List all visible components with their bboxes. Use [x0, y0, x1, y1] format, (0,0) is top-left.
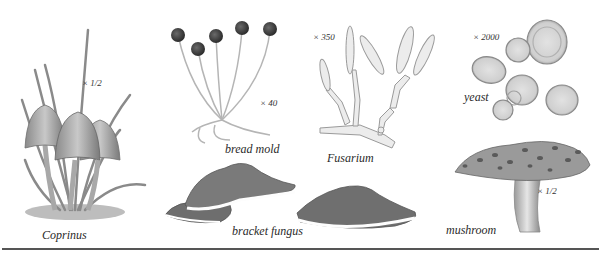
magnification-fusarium: × 350: [313, 32, 335, 42]
label-bracket-fungus: bracket fungus: [232, 224, 303, 239]
bottom-rule: [2, 248, 599, 250]
magnification-yeast: × 2000: [473, 32, 499, 42]
magnification-bread-mold: × 40: [260, 98, 277, 108]
mushroom-drawing: [455, 142, 590, 233]
bread-mold-sporangia: [171, 21, 277, 56]
label-mushroom: mushroom: [446, 223, 496, 238]
illustrations: [0, 0, 601, 255]
coprinus-drawing: [22, 30, 145, 220]
fusarium-drawing: [318, 25, 438, 148]
magnification-mushroom: × 1/2: [537, 186, 557, 196]
magnification-coprinus: × 1/2: [82, 78, 102, 88]
bracket-fungus-drawing: [165, 163, 416, 228]
label-fusarium: Fusarium: [327, 151, 374, 166]
label-bread-mold: bread mold: [225, 142, 280, 157]
label-coprinus: Coprinus: [42, 228, 87, 243]
label-yeast: yeast: [464, 90, 489, 105]
fungi-illustration-plate: Coprinus × 1/2 bread mold × 40 Fusarium …: [0, 0, 601, 255]
